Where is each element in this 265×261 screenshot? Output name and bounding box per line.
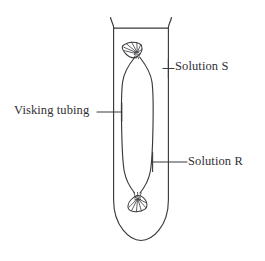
bottom-knot (128, 192, 147, 211)
test-tube-outline (111, 18, 172, 241)
label-solution-r: Solution R (188, 155, 243, 168)
visking-tubing-bag-right (140, 57, 154, 193)
top-knot (122, 42, 142, 59)
figure-canvas: Solution S Solution R Visking tubing (0, 0, 265, 261)
label-visking-tubing: Visking tubing (14, 104, 89, 117)
label-solution-s: Solution S (175, 60, 228, 73)
osmosis-diagram (0, 0, 265, 261)
visking-tubing-bag (121, 57, 135, 193)
